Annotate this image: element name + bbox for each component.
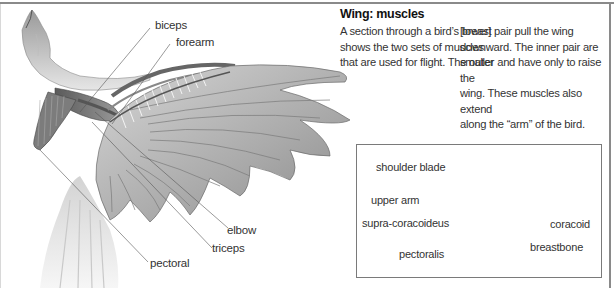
label-upper-arm: upper arm (371, 195, 419, 206)
column-2-line: smaller and have only to raise the (460, 55, 610, 86)
label-triceps: triceps (212, 243, 244, 255)
column-2-line: wing. These muscles also extend (460, 86, 610, 117)
label-pectoralis: pectoralis (399, 249, 444, 260)
label-pectoral: pectoral (150, 258, 189, 270)
label-coracoid: coracoid (550, 219, 590, 230)
label-biceps: biceps (155, 20, 187, 32)
spread-wing (96, 65, 350, 222)
column-2-line: [lower] pair pull the wing (460, 24, 610, 40)
article-title: Wing: muscles (340, 7, 424, 21)
column-2-line: downward. The inner pair are (460, 40, 610, 56)
bird-breast (34, 92, 76, 150)
page-frame: biceps forearm elbow triceps pectoral Wi… (0, 0, 614, 288)
bird-head (22, 10, 150, 90)
label-shoulder-blade: shoulder blade (376, 162, 445, 173)
column-2-line: along the “arm” of the bird. (460, 117, 610, 133)
label-supra-coracoideus: supra-coracoideus (362, 218, 449, 229)
article-column-2: [lower] pair pull the wing downward. The… (460, 24, 610, 133)
label-elbow: elbow (227, 225, 256, 237)
label-breastbone: breastbone (530, 242, 583, 253)
label-forearm: forearm (176, 37, 214, 49)
